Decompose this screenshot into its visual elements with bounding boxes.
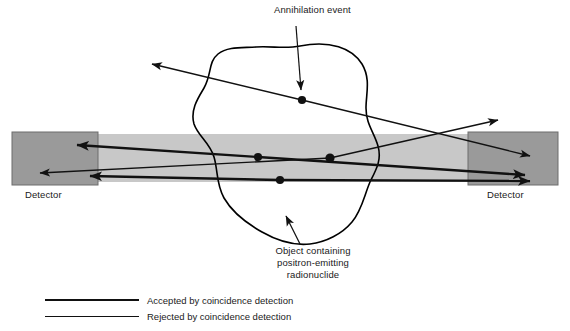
detector-left-label: Detector: [25, 189, 62, 201]
legend-label-rejected: Rejected by coincidence detection: [147, 311, 291, 322]
legend-item-rejected: Rejected by coincidence detection: [45, 308, 355, 324]
leader-object-caption: [286, 216, 300, 244]
detector-left-block: [12, 132, 98, 185]
pet-coincidence-diagram: [0, 0, 570, 331]
legend-item-accepted: Accepted by coincidence detection: [45, 292, 355, 308]
figure-canvas: Annihilation event Detector Detector Obj…: [0, 0, 570, 331]
annihilation-point-3: [325, 153, 334, 162]
object-caption-line-1: Object containing: [243, 245, 383, 257]
annihilation-point-4: [276, 176, 284, 184]
object-caption-line-2: positron-emitting: [243, 257, 383, 269]
detector-right-block: [468, 132, 558, 185]
annihilation-point-1: [298, 96, 306, 104]
ray-event1-left: [152, 64, 302, 100]
object-caption: Object containing positron-emitting radi…: [243, 245, 383, 281]
detector-right-label: Detector: [487, 189, 524, 201]
legend-label-accepted: Accepted by coincidence detection: [147, 295, 293, 306]
object-caption-line-3: radionuclide: [243, 269, 383, 281]
leader-annihilation-event: [296, 26, 301, 90]
legend-line-accepted-icon: [45, 299, 139, 301]
annihilation-point-2: [254, 153, 262, 161]
ray-event4-right: [280, 180, 530, 181]
legend: Accepted by coincidence detection Reject…: [45, 292, 355, 324]
legend-line-rejected-icon: [45, 316, 139, 317]
annihilation-event-label: Annihilation event: [274, 4, 351, 16]
